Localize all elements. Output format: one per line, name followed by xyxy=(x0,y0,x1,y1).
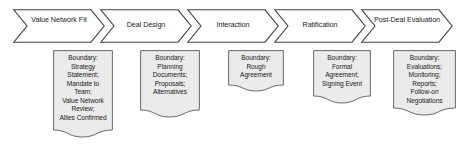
boundary-object-deal-design[interactable]: Boundary: Planning Documents; Proposals;… xyxy=(140,50,200,121)
process-flow-diagram: Value Network Fit Deal Design Interactio… xyxy=(0,0,468,146)
boundary-object-ratification[interactable]: Boundary: Formal Agreement; Signing Even… xyxy=(313,50,371,107)
boundary-object-value-network-fit[interactable]: Boundary: Strategy Statement; Mandate to… xyxy=(53,50,113,141)
boundary-object-post-deal-evaluation[interactable]: Boundary: Evaluations; Monitoring; Repor… xyxy=(393,50,456,119)
boundary-object-row: Boundary: Strategy Statement; Mandate to… xyxy=(0,0,468,146)
boundary-object-interaction[interactable]: Boundary: Rough Agreement xyxy=(228,50,284,95)
